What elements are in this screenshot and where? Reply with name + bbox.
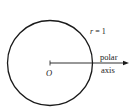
arrowhead-icon	[123, 61, 129, 65]
radius-value: = 1	[93, 27, 106, 36]
polar-axis-label-line2: axis	[101, 66, 115, 75]
radius-label: r = 1	[90, 28, 106, 36]
polar-axis-label-line1: polar	[100, 53, 117, 62]
origin-label: O	[46, 69, 52, 78]
